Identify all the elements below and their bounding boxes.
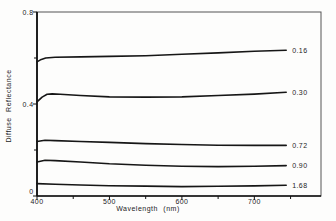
series-line-0.72 bbox=[37, 140, 286, 145]
series-line-0.16 bbox=[37, 50, 286, 62]
series-label-0.72: 0.72 bbox=[292, 142, 307, 149]
chart-series: 0.160.300.720.901.68 bbox=[37, 47, 307, 189]
x-tick-label: 700 bbox=[248, 198, 261, 205]
y-axis-title: Diffuse Reflectance bbox=[5, 69, 12, 142]
y-tick-label: 0 bbox=[29, 188, 33, 195]
series-line-1.68 bbox=[37, 184, 286, 187]
series-line-0.90 bbox=[37, 160, 286, 166]
diffuse-reflectance-chart: 400500600700 00.40.8 0.160.300.720.901.6… bbox=[0, 0, 336, 221]
y-tick-label: 0.8 bbox=[23, 9, 34, 16]
y-tick-label: 0.4 bbox=[23, 101, 34, 108]
series-label-0.30: 0.30 bbox=[292, 89, 307, 96]
chart-canvas: 400500600700 00.40.8 0.160.300.720.901.6… bbox=[0, 0, 336, 221]
x-axis-title: Wavelength (nm) bbox=[116, 205, 180, 213]
series-label-0.16: 0.16 bbox=[292, 47, 307, 54]
x-axis-ticks: 400500600700 bbox=[31, 196, 291, 205]
series-label-1.68: 1.68 bbox=[292, 182, 307, 189]
y-axis-ticks: 00.40.8 bbox=[23, 9, 37, 196]
plot-frame bbox=[37, 12, 321, 196]
x-tick-label: 500 bbox=[103, 198, 116, 205]
x-tick-label: 400 bbox=[31, 198, 44, 205]
series-label-0.90: 0.90 bbox=[292, 162, 307, 169]
series-line-0.30 bbox=[37, 92, 286, 102]
